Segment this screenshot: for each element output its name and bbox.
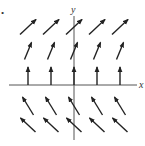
direction-arrow-icon [48,43,55,60]
y-axis-label: y [70,4,76,15]
direction-arrow-icon [23,97,34,115]
direction-arrow-icon [112,20,128,35]
corner-mark: • [1,8,4,18]
direction-arrow-icon [44,118,59,132]
direction-arrow-icon [89,20,105,35]
direction-arrow-icon [25,43,32,60]
direction-arrow-icon [92,97,103,115]
direction-arrow-icon [90,118,105,132]
direction-arrow-icon [115,97,126,115]
direction-arrow-icon [46,97,57,115]
direction-arrow-icon [117,43,124,60]
direction-arrow-icon [20,20,36,35]
direction-field-diagram: • x y [0,0,145,146]
direction-arrow-icon [113,118,128,132]
x-axis-label: x [138,79,144,90]
direction-arrow-icon [21,118,36,132]
direction-arrow-icon [43,20,59,35]
direction-arrow-icon [94,43,101,60]
